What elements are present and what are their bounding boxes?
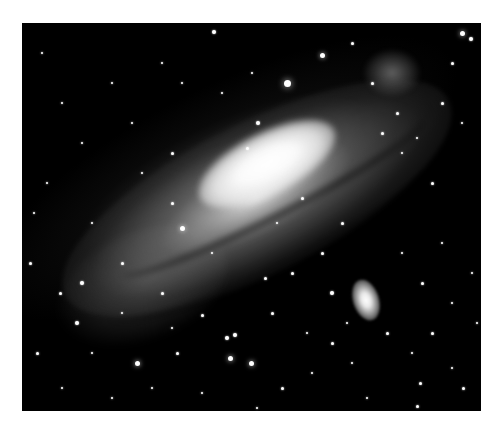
star bbox=[451, 302, 453, 304]
star bbox=[416, 137, 418, 139]
star bbox=[441, 242, 443, 244]
star bbox=[111, 82, 113, 84]
star bbox=[33, 212, 35, 214]
star bbox=[36, 352, 39, 355]
star bbox=[451, 62, 454, 65]
star bbox=[151, 387, 153, 389]
star bbox=[469, 37, 473, 41]
star bbox=[91, 352, 93, 354]
star bbox=[320, 53, 325, 58]
star bbox=[281, 387, 284, 390]
star bbox=[381, 132, 384, 135]
star bbox=[212, 30, 216, 34]
star bbox=[251, 72, 253, 74]
star bbox=[431, 182, 434, 185]
dust-lane bbox=[110, 98, 434, 293]
star bbox=[201, 314, 204, 317]
lower-spiral-arm bbox=[37, 200, 247, 376]
star bbox=[416, 405, 419, 408]
star bbox=[411, 352, 413, 354]
star bbox=[161, 62, 163, 64]
star bbox=[91, 222, 93, 224]
star bbox=[61, 102, 63, 104]
star bbox=[311, 372, 313, 374]
star bbox=[80, 281, 84, 285]
star bbox=[264, 277, 267, 280]
star bbox=[301, 197, 304, 200]
star bbox=[321, 252, 324, 255]
star bbox=[276, 222, 278, 224]
star bbox=[371, 82, 374, 85]
star bbox=[419, 382, 422, 385]
star bbox=[246, 147, 249, 150]
star bbox=[201, 392, 203, 394]
star bbox=[171, 152, 174, 155]
upper-spiral-arm-tip bbox=[362, 48, 422, 98]
star bbox=[176, 352, 179, 355]
star bbox=[171, 327, 173, 329]
star bbox=[221, 92, 223, 94]
star bbox=[476, 322, 478, 324]
star bbox=[41, 52, 43, 54]
star bbox=[331, 342, 334, 345]
star bbox=[75, 321, 79, 325]
satellite-galaxy bbox=[347, 276, 385, 324]
galaxy-photo bbox=[22, 23, 481, 411]
star bbox=[211, 252, 213, 254]
outer-dust-lane bbox=[86, 111, 459, 350]
star bbox=[271, 312, 274, 315]
star bbox=[386, 332, 389, 335]
star bbox=[59, 292, 62, 295]
galaxy-core bbox=[186, 102, 348, 225]
star bbox=[306, 332, 308, 334]
star bbox=[61, 387, 63, 389]
star bbox=[401, 252, 403, 254]
star bbox=[135, 361, 140, 366]
star bbox=[181, 82, 183, 84]
star bbox=[346, 322, 348, 324]
star bbox=[401, 152, 403, 154]
star-field bbox=[22, 23, 481, 411]
star bbox=[351, 362, 353, 364]
star bbox=[471, 272, 473, 274]
star bbox=[396, 112, 399, 115]
star bbox=[351, 42, 354, 45]
star bbox=[256, 121, 260, 125]
star bbox=[180, 226, 185, 231]
star bbox=[284, 80, 291, 87]
star bbox=[341, 222, 344, 225]
star bbox=[121, 262, 124, 265]
star bbox=[233, 333, 237, 337]
star bbox=[81, 142, 83, 144]
star bbox=[451, 367, 453, 369]
star bbox=[171, 202, 174, 205]
star bbox=[366, 397, 368, 399]
star bbox=[161, 292, 164, 295]
galaxy-disk bbox=[31, 34, 481, 363]
star bbox=[225, 336, 229, 340]
star bbox=[121, 312, 123, 314]
star bbox=[111, 397, 113, 399]
star bbox=[291, 272, 294, 275]
star bbox=[421, 282, 424, 285]
star bbox=[461, 122, 463, 124]
star bbox=[228, 356, 233, 361]
star bbox=[46, 182, 48, 184]
galaxy-halo bbox=[22, 23, 481, 411]
star bbox=[460, 31, 465, 36]
star bbox=[249, 361, 254, 366]
star bbox=[330, 291, 334, 295]
star bbox=[256, 407, 258, 409]
star bbox=[462, 387, 465, 390]
star bbox=[131, 122, 133, 124]
star bbox=[441, 102, 444, 105]
star bbox=[431, 332, 434, 335]
star bbox=[141, 172, 143, 174]
star bbox=[29, 262, 32, 265]
